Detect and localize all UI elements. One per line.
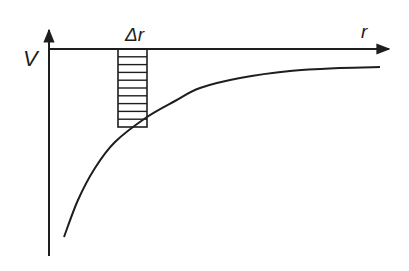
y-axis-label: V <box>23 48 38 70</box>
potential-curve <box>64 67 380 237</box>
delta-r-strip <box>118 49 147 127</box>
x-axis-label: r <box>361 22 367 41</box>
strip-label: Δr <box>125 25 144 44</box>
potential-diagram <box>0 0 409 271</box>
